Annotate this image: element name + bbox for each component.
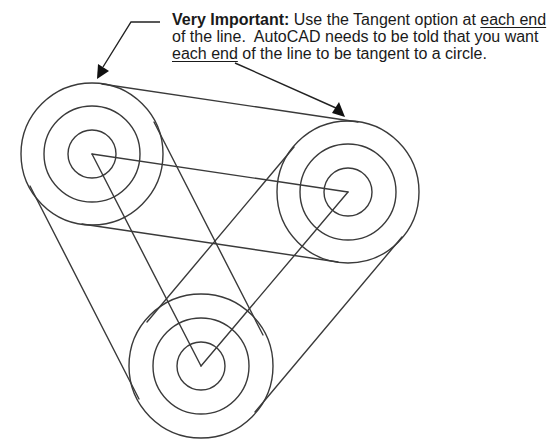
callout-underline-each-end-2: each end (172, 45, 238, 62)
leader-line-right (235, 63, 336, 108)
tangent-ac-inner (154, 122, 263, 335)
arrowhead-right-icon (332, 102, 345, 117)
leader-line-left (103, 22, 160, 67)
center-line-c-a (92, 154, 201, 366)
center-line-a-b (92, 154, 348, 192)
callout-line-3: each end of the line to be tangent to a … (172, 45, 552, 62)
center-line-b-c (201, 192, 348, 366)
callout-line-1-text: Use the Tangent option at (289, 11, 480, 28)
callout-line-2: of the line. AutoCAD needs to be told th… (172, 28, 552, 45)
tangent-circles-diagram (0, 0, 552, 448)
callout-note: Very Important: Use the Tangent option a… (172, 11, 552, 62)
callout-line-1: Very Important: Use the Tangent option a… (172, 11, 552, 28)
callout-bold-label: Very Important: (172, 11, 289, 28)
callout-underline-each-end-1: each end (480, 11, 546, 28)
callout-line-3-text: of the line to be tangent to a circle. (238, 45, 487, 62)
tangent-right-outer (255, 237, 402, 412)
